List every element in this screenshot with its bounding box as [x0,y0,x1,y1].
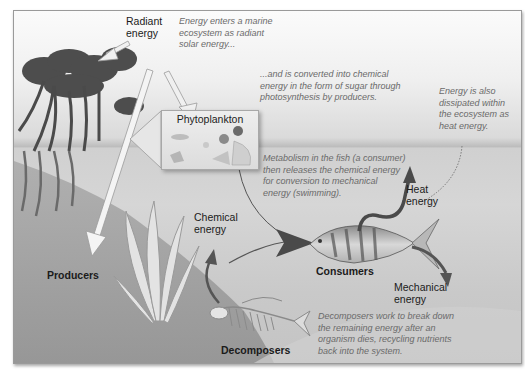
phytoplankton-panel: Phytoplankton [161,110,259,170]
consumer-fish-icon [310,219,439,269]
chemical-energy-label: Chemical energy [194,211,238,235]
energy-flow-diagram: Phytoplankton Radiant energy Producers C… [13,10,522,364]
producers-label: Producers [47,269,99,281]
seabed [14,161,274,363]
phytoplankton-organisms-icon [162,111,258,169]
consumers-label: Consumers [316,265,374,277]
note-photosynthesis: ...and is converted into chemical energy… [260,69,401,104]
note-metabolism: Metabolism in the fish (a consumer) then… [263,153,406,199]
heat-energy-label: Heat energy [406,183,438,207]
radiant-energy-label: Radiant energy [126,15,162,39]
note-decomposers: Decomposers work to break down the remai… [318,311,454,357]
note-heat-dissipation: Energy is also dissipated within the eco… [439,86,509,132]
mechanical-energy-label: Mechanical energy [394,281,447,305]
note-solar-energy: Energy enters a marine ecosystem as radi… [179,16,273,51]
decomposers-label: Decomposers [221,344,290,356]
